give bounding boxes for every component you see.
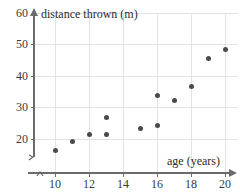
y-tick-40 — [31, 76, 35, 77]
data-point — [138, 126, 143, 131]
x-axis-title: age (years) — [167, 155, 220, 167]
data-point — [172, 98, 177, 103]
x-axis-line — [28, 172, 231, 174]
y-tick-label-30: 30 — [6, 101, 28, 113]
y-tick-label-50: 50 — [6, 38, 28, 50]
gridline-vertical-12 — [89, 13, 90, 173]
x-axis-break-icon — [34, 165, 46, 177]
gridline-horizontal-50 — [33, 44, 238, 45]
y-tick-50 — [31, 44, 35, 45]
x-tick-label-14: 14 — [111, 178, 135, 190]
data-point — [104, 115, 109, 120]
gridline-vertical-20 — [225, 13, 226, 173]
gridline-horizontal-40 — [33, 76, 238, 77]
x-tick-label-16: 16 — [145, 178, 169, 190]
data-point — [206, 56, 211, 61]
scatter-plot-figure: 10 12 14 16 18 20 20 30 40 50 60 distanc… — [0, 0, 240, 193]
gridline-horizontal-20 — [33, 139, 238, 140]
y-axis-title: distance thrown (m) — [41, 8, 138, 20]
data-point — [155, 123, 160, 128]
x-tick-label-20: 20 — [213, 178, 237, 190]
data-point — [223, 47, 228, 52]
gridline-horizontal-30 — [33, 107, 238, 108]
data-point — [53, 148, 58, 153]
x-tick-label-10: 10 — [43, 178, 67, 190]
y-axis-line — [33, 16, 35, 157]
x-tick-label-12: 12 — [77, 178, 101, 190]
gridline-vertical-14 — [123, 13, 124, 173]
data-point — [70, 139, 75, 144]
y-tick-label-20: 20 — [6, 133, 28, 145]
data-point — [189, 84, 194, 89]
data-point — [104, 132, 109, 137]
y-tick-label-40: 40 — [6, 70, 28, 82]
gridline-vertical-18 — [191, 13, 192, 173]
y-tick-30 — [31, 107, 35, 108]
x-tick-label-18: 18 — [179, 178, 203, 190]
y-tick-20 — [31, 139, 35, 140]
x-axis-arrow-icon — [229, 169, 237, 177]
y-axis-arrow-icon — [30, 8, 38, 16]
y-tick-label-60: 60 — [6, 7, 28, 19]
data-point — [87, 132, 92, 137]
y-axis-break-icon — [28, 152, 40, 164]
data-point — [155, 93, 160, 98]
